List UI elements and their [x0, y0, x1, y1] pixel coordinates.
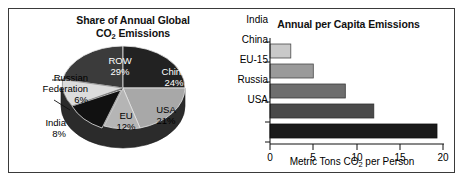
bar-india [270, 44, 291, 58]
pie-label-usa-name: USA [156, 104, 176, 115]
pie-label-usa: USA 21% [147, 104, 185, 126]
pie-label-usa-value: 21% [156, 115, 175, 126]
pie-title-line2-post: Emissions [116, 27, 170, 39]
pie-label-eu-name: EU [119, 110, 132, 121]
bar-category-label-india: India [232, 14, 268, 25]
bar-x-axis-title-pre: Metric Tons CO [290, 156, 359, 167]
bar-x-axis-title-subscript: 2 [358, 160, 362, 169]
pie-label-russian-federation: Russian Federation 6% [0, 72, 88, 105]
pie-label-china: China 24% [152, 66, 196, 88]
figure-container: Share of Annual Global CO2 Emissions [0, 0, 463, 182]
pie-label-china-value: 24% [164, 77, 183, 88]
pie-label-russia-line1: Russian [54, 72, 88, 83]
pie-label-russia-value: 6% [74, 94, 88, 105]
pie-chart-title: Share of Annual Global CO2 Emissions [38, 14, 228, 41]
pie-label-russia-line2: Federation [43, 83, 88, 94]
bar-usa [270, 124, 437, 138]
bar-chart-title: Annual per Capita Emissions [236, 18, 461, 30]
bar-x-axis-title: Metric Tons CO2 per Person [252, 156, 452, 167]
pie-label-eu-value: 12% [116, 121, 135, 132]
bar-x-axis-title-post: per Person [363, 156, 415, 167]
pie-label-row-name: ROW [108, 55, 131, 66]
pie-label-row: ROW 29% [96, 55, 144, 77]
pie-label-row-value: 29% [110, 66, 129, 77]
pie-label-india-value: 8% [52, 128, 66, 139]
pie-title-line2-pre: CO [96, 27, 112, 39]
pie-label-india-name: India [45, 117, 66, 128]
bar-chart-panel: Annual per Capita Emissions India China … [232, 0, 463, 182]
bar-russia [270, 104, 374, 118]
pie-label-india: India 8% [0, 117, 66, 139]
pie-label-china-name: China [162, 66, 187, 77]
bar-chart-graphic [232, 34, 463, 164]
bar-eu15 [270, 84, 345, 98]
bar-china [270, 64, 313, 78]
pie-label-eu: EU 12% [110, 110, 142, 132]
pie-title-line1: Share of Annual Global [76, 14, 190, 26]
pie-chart-panel: Share of Annual Global CO2 Emissions [0, 0, 232, 182]
